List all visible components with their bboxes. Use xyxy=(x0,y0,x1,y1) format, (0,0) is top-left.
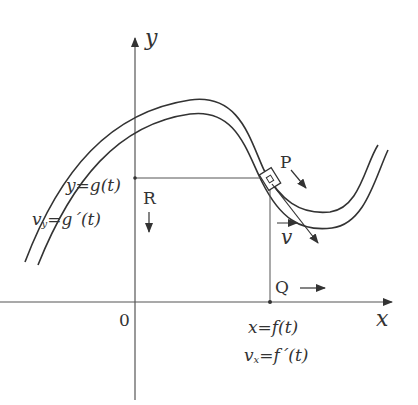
moving-point-box xyxy=(259,168,280,191)
point-p-label: P xyxy=(280,152,291,172)
x-velocity-main: v xyxy=(244,345,254,365)
diagram-canvas: y x 0 P R Q v y=g(t) vy=g´(t) x=f(t) vx=… xyxy=(0,0,418,405)
velocity-vector-label: v xyxy=(281,225,293,249)
origin-label: 0 xyxy=(119,310,130,330)
y-velocity-main: v xyxy=(32,209,42,229)
y-position-label: y=g(t) xyxy=(65,175,121,195)
point-on-x-axis xyxy=(268,300,272,304)
velocity-vector xyxy=(272,184,318,243)
x-velocity-rhs: =f´(t) xyxy=(259,345,308,365)
point-q-label: Q xyxy=(275,277,289,297)
y-velocity-label: vy=g´(t) xyxy=(32,209,101,229)
point-r-label: R xyxy=(143,188,157,208)
point-on-y-axis xyxy=(133,176,137,180)
p-direction-arrow xyxy=(291,170,306,188)
x-velocity-label: vx=f´(t) xyxy=(244,345,308,365)
y-velocity-rhs: =g´(t) xyxy=(47,209,101,229)
y-axis-label: y xyxy=(144,25,158,50)
x-position-label: x=f(t) xyxy=(248,317,298,337)
x-axis-label: x xyxy=(376,306,389,331)
